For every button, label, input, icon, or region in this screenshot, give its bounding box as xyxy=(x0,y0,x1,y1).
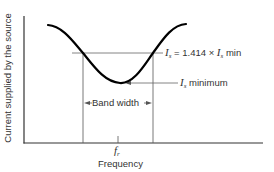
band-width-label: Band width xyxy=(92,97,139,108)
minimum-annotation: Is minimum xyxy=(180,76,228,90)
x-axis-label: Frequency xyxy=(98,158,143,169)
y-axis-label: Current supplied by the source xyxy=(2,13,13,143)
equation-text: = 1.414 × xyxy=(174,47,214,58)
resonant-frequency-label: fr xyxy=(114,144,120,158)
diagram-canvas xyxy=(0,0,274,172)
half-power-annotation: Is = 1.414 × Is min xyxy=(165,46,241,60)
